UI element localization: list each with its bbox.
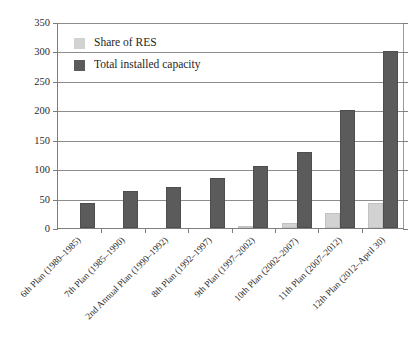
x-axis-tick-mark (362, 228, 363, 233)
bar-total-installed-capacity (297, 152, 312, 229)
y-axis-tick-mark (53, 229, 58, 230)
y-axis-tick-label: 350 (34, 18, 50, 29)
y-axis-tick-label: 300 (34, 47, 50, 58)
x-axis-category-label: 11th Plan (2007–2012) (277, 236, 344, 303)
y-axis-tick-label: 250 (34, 77, 50, 88)
bar-group-item (275, 23, 318, 228)
legend-swatch-icon-total-installed-capacity (74, 60, 85, 71)
x-axis-category-label: 10th Plan (2002–2007) (233, 236, 300, 303)
bar-group-item (232, 23, 275, 228)
x-axis-category-label: 12th Plan (2012–April 30) (311, 236, 387, 312)
bar-total-installed-capacity (80, 203, 95, 228)
legend-label-share-of-res: Share of RES (94, 37, 157, 49)
x-axis-category-label: 7th Plan (1985–1990) (63, 236, 127, 300)
bar-total-installed-capacity (340, 110, 355, 228)
legend-item-total-installed-capacity: Total installed capacity (74, 54, 201, 76)
x-axis-category-label: 8th Plan (1992–1997) (150, 236, 214, 300)
x-axis-tick-mark (275, 228, 276, 233)
y-axis-tick-label: 100 (34, 165, 50, 176)
bar-group-item (362, 23, 405, 228)
bar-total-installed-capacity (123, 191, 138, 228)
y-axis-tick-label: 200 (34, 106, 50, 117)
legend-item-share-of-res: Share of RES (74, 32, 201, 54)
bar-share-of-res (325, 213, 340, 228)
x-axis-category-label: 9th Plan (1997–2002) (193, 236, 257, 300)
y-axis-tick-mark-right (403, 229, 408, 230)
y-axis-tick-label: 50 (40, 194, 51, 205)
y-axis-tick-label: 150 (34, 135, 50, 146)
x-axis-tick-mark (188, 228, 189, 233)
x-axis-tick-mark (232, 228, 233, 233)
bar-total-installed-capacity (210, 178, 225, 228)
bar-total-installed-capacity (383, 51, 398, 228)
x-axis-tick-mark (318, 228, 319, 233)
x-axis-tick-mark (145, 228, 146, 233)
chart-legend: Share of RES Total installed capacity (74, 32, 201, 76)
x-axis-tick-mark (101, 228, 102, 233)
bar-group-item (318, 23, 361, 228)
y-axis-tick-label: 0 (45, 224, 50, 235)
x-axis-category-label: 2nd Annual Plan (1990–1992) (84, 236, 170, 322)
bar-total-installed-capacity (166, 187, 181, 228)
bar-share-of-res (368, 203, 383, 228)
bar-share-of-res (238, 226, 253, 228)
bar-share-of-res (282, 223, 297, 228)
bar-total-installed-capacity (253, 166, 268, 228)
x-axis-category-label: 6th Plan (1980–1985) (19, 236, 83, 300)
legend-swatch-icon-share-of-res (74, 38, 85, 49)
legend-label-total-installed-capacity: Total installed capacity (94, 59, 201, 71)
bar-chart: 350300250200150100500 Share of RES Total… (0, 0, 419, 363)
